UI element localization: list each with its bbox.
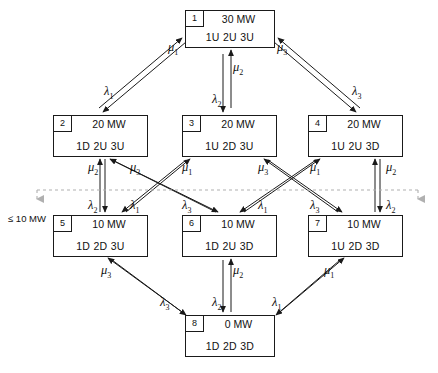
state-node-1-id: 1 — [186, 11, 204, 27]
edge-label-lambda1-4to6: λ1 — [258, 198, 267, 215]
edge-label-mu1-2to1: μ1 — [168, 40, 178, 57]
state-node-7-id: 7 — [309, 216, 327, 232]
edge-7-to-3 — [264, 159, 338, 212]
edge-label-mu2-7to4: μ2 — [386, 160, 396, 177]
edge-label-mu1-8to7: μ1 — [324, 263, 334, 280]
state-node-5-status: 1D 2D 3U — [54, 240, 147, 252]
edge-4-to-1 — [278, 38, 360, 108]
edge-label-mu1-5to3: μ1 — [182, 160, 192, 177]
edge-label-mu1-6to4: μ1 — [310, 160, 320, 177]
edge-label-lambda3-1to4: λ3 — [352, 84, 361, 101]
state-node-1[interactable]: 1 30 MW 1U 2U 3U — [185, 10, 275, 48]
state-node-6[interactable]: 6 10 MW 1D 2U 3D — [182, 215, 277, 257]
edge-label-lambda2-4to7: λ2 — [386, 198, 395, 215]
state-node-7[interactable]: 7 10 MW 1U 2D 3D — [308, 215, 403, 257]
state-node-5-capacity: 10 MW — [71, 218, 147, 230]
state-node-5[interactable]: 5 10 MW 1D 2D 3U — [53, 215, 148, 257]
edge-8-to-5 — [108, 258, 182, 312]
edge-6-to-4 — [244, 159, 320, 212]
edge-6-to-2 — [110, 159, 216, 212]
state-node-6-capacity: 10 MW — [200, 218, 276, 230]
state-node-1-status: 1U 2U 3U — [186, 31, 274, 43]
state-node-5-id: 5 — [54, 216, 72, 232]
edge-label-mu2-5to2: μ2 — [88, 160, 98, 177]
edge-label-lambda3-5to8: λ3 — [160, 295, 169, 312]
state-node-3-id: 3 — [183, 116, 201, 132]
state-node-3-capacity: 20 MW — [200, 118, 276, 130]
state-node-2[interactable]: 2 20 MW 1D 2U 3U — [53, 115, 148, 157]
state-node-2-capacity: 20 MW — [71, 118, 147, 130]
threshold-label: ≤ 10 MW — [8, 213, 46, 224]
state-node-3-status: 1U 2D 3U — [183, 140, 276, 152]
edge-label-mu3-4to1: μ3 — [277, 40, 287, 57]
state-node-6-status: 1D 2U 3D — [183, 240, 276, 252]
edge-label-mu2-8to6: μ2 — [233, 263, 243, 280]
edge-label-mu2-3to1: μ2 — [233, 60, 243, 77]
state-node-7-capacity: 10 MW — [326, 218, 402, 230]
edge-label-mu3-7to3: μ3 — [258, 160, 268, 177]
edge-label-lambda2-6to8: λ2 — [212, 295, 221, 312]
state-node-7-status: 1U 2D 3D — [309, 240, 402, 252]
edge-label-lambda1-7to8: λ1 — [272, 295, 281, 312]
edge-label-lambda2-2to5: λ2 — [88, 198, 97, 215]
edge-label-mu3-6to2: μ3 — [130, 160, 140, 177]
state-transition-diagram: 1 30 MW 1U 2U 3U 2 20 MW 1D 2U 3U 3 20 M… — [0, 0, 438, 373]
state-node-2-status: 1D 2U 3U — [54, 140, 147, 152]
state-node-4-status: 1U 2U 3D — [309, 140, 402, 152]
state-node-2-id: 2 — [54, 116, 72, 132]
state-node-1-capacity: 30 MW — [203, 13, 274, 25]
state-node-6-id: 6 — [183, 216, 201, 232]
edge-8-to-7 — [280, 258, 344, 312]
state-node-8-status: 1D 2D 3D — [186, 340, 274, 352]
edge-label-lambda1-1to2: λ1 — [104, 84, 113, 101]
state-node-3[interactable]: 3 20 MW 1U 2D 3U — [182, 115, 277, 157]
edge-label-lambda1-3to5: λ1 — [130, 198, 139, 215]
edge-label-lambda3-2to6: λ3 — [182, 198, 191, 215]
edge-label-lambda2-1to3: λ2 — [212, 92, 221, 109]
edge-label-mu3-8to5: μ3 — [101, 263, 111, 280]
state-node-8-capacity: 0 MW — [203, 318, 274, 330]
state-node-8-id: 8 — [186, 316, 204, 332]
state-node-4[interactable]: 4 20 MW 1U 2U 3D — [308, 115, 403, 157]
state-node-4-capacity: 20 MW — [326, 118, 402, 130]
state-node-8[interactable]: 8 0 MW 1D 2D 3D — [185, 315, 275, 357]
state-node-4-id: 4 — [309, 116, 327, 132]
edge-label-lambda3-3to7: λ3 — [310, 198, 319, 215]
